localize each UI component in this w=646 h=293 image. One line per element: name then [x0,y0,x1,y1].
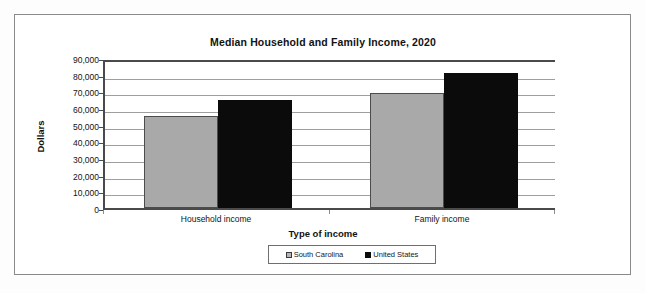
legend-label: United States [373,250,418,259]
y-axis-tick-label: 0 [45,205,99,215]
chart-figure: Median Household and Family Income, 2020… [0,0,646,293]
y-axis-tick-label: 10,000 [45,188,99,198]
chart-legend: South CarolinaUnited States [268,245,436,264]
x-axis-tick-label: Household income [103,214,329,224]
bar-south-carolina-family-income [370,93,444,208]
legend-label: South Carolina [294,250,344,259]
y-axis-tick-label: 80,000 [45,72,99,82]
bar-united-states-household-income [218,100,292,208]
y-axis-tick-label: 70,000 [45,88,99,98]
y-axis-tick-label: 20,000 [45,172,99,182]
legend-entry: South Carolina [286,250,344,259]
chart-title: Median Household and Family Income, 2020 [0,36,646,48]
x-axis-title: Type of income [0,228,646,239]
bar-united-states-family-income [444,73,518,208]
y-axis-tick-label: 30,000 [45,155,99,165]
legend-entry: United States [365,250,418,259]
legend-swatch-icon [286,252,292,258]
y-axis-tick-label: 90,000 [45,55,99,65]
y-axis-tick-label: 60,000 [45,105,99,115]
y-axis-tick-label: 40,000 [45,138,99,148]
y-axis-tick-label: 50,000 [45,122,99,132]
legend-swatch-icon [365,252,371,258]
x-axis-tick-label: Family income [329,214,555,224]
plot-area [103,60,555,210]
y-axis-tick-labels: 90,00080,00070,00060,00050,00040,00030,0… [43,60,99,210]
bar-south-carolina-household-income [144,116,218,208]
